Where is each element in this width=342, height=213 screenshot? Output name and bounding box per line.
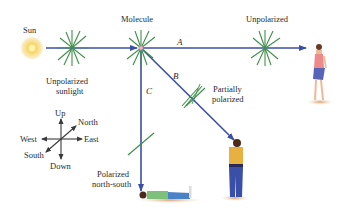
- ray-a-label: A: [177, 38, 183, 47]
- polarized-label-line2: north-south: [92, 180, 131, 189]
- sun-label: Sun: [23, 26, 36, 35]
- partially-polarized-label-line2: polarized: [212, 95, 244, 104]
- observer-c-lying-person-icon: [138, 186, 202, 203]
- compass-south-label: South: [24, 151, 44, 160]
- observer-b-man-icon: [221, 139, 249, 201]
- compass-up-label: Up: [55, 109, 65, 118]
- partially-polarized-label-line1: Partially: [213, 85, 242, 94]
- ray-c-label: C: [146, 87, 152, 96]
- unpolarized-sunlight-label-line1: Unpolarized: [46, 77, 88, 86]
- molecule-icon: [139, 46, 143, 50]
- sun-icon: [19, 35, 45, 61]
- molecule-label: Molecule: [121, 15, 153, 24]
- compass-west-label: West: [20, 135, 37, 144]
- unpolarized-sunlight-star-icon: [57, 30, 87, 66]
- compass-north-label: North: [78, 118, 98, 127]
- polarized-label-line1: Polarized: [97, 170, 129, 179]
- unpolarized-sunlight-label-line2: sunlight: [56, 87, 83, 96]
- ray-b-label: B: [173, 72, 179, 81]
- diagram: Sun Molecule Unpolarized Unpolarized sun…: [0, 0, 342, 213]
- observer-a-woman-icon: [307, 44, 333, 105]
- compass-icon: [42, 119, 82, 159]
- compass-down-label: Down: [50, 162, 71, 171]
- unpolarized-label: Unpolarized: [246, 15, 288, 24]
- partially-polarized-lines-icon: [182, 84, 205, 108]
- compass-east-label: East: [84, 135, 99, 144]
